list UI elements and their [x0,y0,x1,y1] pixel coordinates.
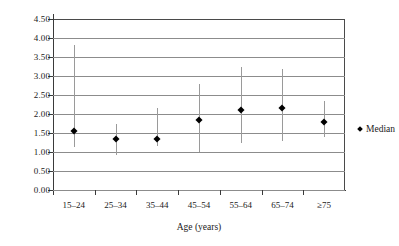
chart-figure: 4.504.003.503.002.502.001.501.000.500.00… [0,0,399,246]
y-axis-tick-label: 4.50 [34,15,50,24]
gridline [53,76,345,77]
x-axis-tick [303,190,304,195]
y-axis-line [53,14,54,195]
gridline [53,190,345,191]
x-axis-tick-label: ≥75 [317,200,331,210]
x-axis-title: Age (years) [53,222,345,233]
legend-label: Median [366,124,395,134]
x-axis-tick-label: 65–74 [271,200,294,210]
x-axis-tick-label: 15–24 [63,200,86,210]
y-axis-tick-label: 3.50 [34,53,50,62]
x-axis-tick-label: 25–34 [104,200,127,210]
legend-marker-diamond-icon [357,126,363,132]
gridline [53,38,345,39]
gridline [53,152,345,153]
y-axis-tick-label: 3.00 [34,72,50,81]
y-axis-tick-label: 1.00 [34,148,50,157]
y-axis-tick-label: 4.00 [34,34,50,43]
x-axis-tick [220,190,221,195]
y-axis-tick-label: 1.50 [34,129,50,138]
y-axis-tick-label: 2.50 [34,91,50,100]
y-axis-tick-label: 0.50 [34,167,50,176]
x-axis-tick [178,190,179,195]
range-bar [241,67,242,143]
x-axis-tick [262,190,263,195]
x-axis-tick-label: 55–64 [229,200,252,210]
x-axis-tick [136,190,137,195]
gridline [53,171,345,172]
x-axis-tick [95,190,96,195]
y-axis-tick-label: 2.00 [34,110,50,119]
x-axis-tick-label: 45–54 [188,200,211,210]
legend: Median [358,124,395,134]
gridline [53,57,345,58]
y-axis-tick-label: 0.00 [34,186,50,195]
x-axis-tick-label: 35–44 [146,200,169,210]
